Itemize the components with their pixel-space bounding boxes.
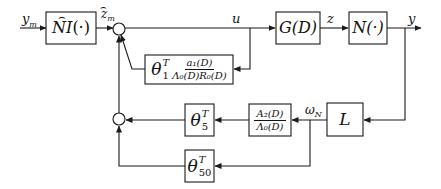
label-zm-hat: ⌢zm <box>101 8 115 23</box>
wire-theta1-sum <box>121 35 145 69</box>
label-omega: ωN <box>305 104 322 119</box>
label-z: z <box>327 12 334 25</box>
wire-u-theta1 <box>234 28 250 69</box>
label-ym: ym <box>22 12 37 29</box>
summing-junction-upper <box>113 23 125 35</box>
wire-theta50-sum <box>119 126 185 166</box>
block-theta50-label: θT50 <box>185 150 214 182</box>
block-theta5-label: θT5 <box>185 104 214 136</box>
block-theta1-label: θT1 a₁(D)Λ₀(D)R₀(D) <box>145 55 233 84</box>
label-y: y <box>408 12 415 25</box>
label-u: u <box>232 12 240 25</box>
block-n-label: N(·) <box>349 12 387 44</box>
block-a2-label: A₂(D)Λ₀(D) <box>249 104 291 136</box>
block-ni-label: ⌢NI(·) <box>46 12 96 44</box>
block-l-label: L <box>327 103 363 136</box>
block-g-label: G(D) <box>276 12 320 44</box>
summing-junction-lower <box>113 113 125 125</box>
